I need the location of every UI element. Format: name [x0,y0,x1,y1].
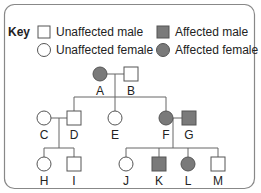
individual-J-unaffected-female-icon [119,157,133,171]
key-affected-female-icon [157,44,170,57]
label-H: H [40,174,49,188]
individual-D-unaffected-male-icon [67,111,81,125]
label-J: J [123,174,129,188]
key-label-unaffected-female: Unaffected female [56,43,153,57]
label-I: I [72,174,75,188]
individual-C-unaffected-female-icon [37,111,51,125]
label-C: C [40,128,49,142]
label-G: G [184,128,193,142]
key-unaffected-female-icon [38,44,51,57]
individual-I-unaffected-male-icon [67,157,81,171]
key-label-affected-female: Affected female [175,43,258,57]
label-A: A [96,84,104,98]
label-K: K [155,174,163,188]
individual-F-affected-female-icon [159,111,173,125]
key-title: Key [8,25,30,39]
label-F: F [162,128,169,142]
key-label-affected-male: Affected male [175,25,248,39]
individual-H-unaffected-female-icon [37,157,51,171]
individual-M-unaffected-male-icon [211,157,225,171]
individual-K-affected-male-icon [152,157,166,171]
key-label-unaffected-male: Unaffected male [56,25,143,39]
pedigree-diagram: Key Unaffected male Unaffected female Af… [0,0,261,193]
label-B: B [127,84,135,98]
individual-E-unaffected-female-icon [108,111,122,125]
individual-A-affected-female-icon [93,67,107,81]
individual-B-unaffected-male-icon [124,67,138,81]
individual-G-affected-male-icon [182,111,196,125]
individual-L-affected-female-icon [181,157,195,171]
label-D: D [70,128,79,142]
label-L: L [185,174,192,188]
key-affected-male-icon [157,26,169,38]
key-unaffected-male-icon [38,26,50,38]
label-M: M [213,174,223,188]
label-E: E [111,128,119,142]
